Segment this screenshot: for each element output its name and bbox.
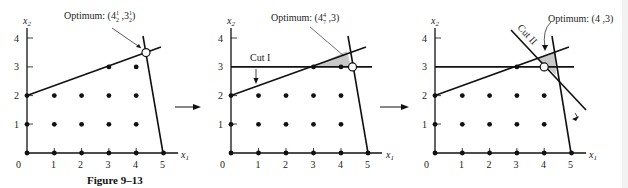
x-tick-2: 2 [78,159,83,170]
y-tick-3: 3 [422,61,427,72]
optimum-label: Optimum: (447 ,3) [271,12,339,25]
x-tick-1: 1 [51,159,56,170]
y-tick-1: 1 [218,119,223,130]
panel-2: 0 1 2 3 4 5 1 2 3 4 x1 x2 Cut I Optimum:… [218,12,409,170]
y-tick-4: 4 [422,33,427,44]
panel-1: 0 1 2 3 4 5 1 2 3 4 x1 x2 Optimum: (412 … [14,10,201,186]
x-tick-0: 0 [220,159,225,170]
y-tick-2: 2 [14,90,19,101]
integer-points [25,65,166,156]
arrow-right-icon [401,104,409,110]
x-axis-label: x1 [180,149,189,162]
arrow-down-icon [254,78,259,84]
cut-2-line [511,30,586,110]
x-tick-3: 3 [514,159,519,170]
y-axis-label: x2 [430,15,439,28]
arrow-right-icon [193,104,201,110]
optimum-label: Optimum: (412 ,312) [64,10,135,23]
integer-points [229,65,371,156]
figure-canvas: 0 1 2 3 4 5 1 2 3 4 x1 x2 Optimum: (412 … [0,0,628,188]
x-tick-2: 2 [487,159,492,170]
x-tick-3: 3 [311,159,316,170]
y-tick-2: 2 [422,90,427,101]
y-axis-label: x2 [226,15,235,28]
cut-2-label: Cut II [516,22,540,47]
y-tick-4: 4 [14,33,19,44]
optimum-marker [349,63,357,71]
optimum-label: Optimum: (4 ,3) [548,13,613,25]
y-tick-4: 4 [218,33,223,44]
panel-3: 0 1 2 3 4 5 1 2 3 4 x1 x2 Cut II Optimum… [422,13,613,170]
x-tick-1: 1 [459,159,464,170]
x-tick-1: 1 [256,159,261,170]
y-tick-3: 3 [218,61,223,72]
optimum-pointer [112,28,141,48]
y-tick-3: 3 [14,61,19,72]
x-tick-0: 0 [16,159,21,170]
cut-1-label: Cut I [250,52,270,63]
optimum-pointer [310,27,344,56]
y-tick-2: 2 [218,90,223,101]
page-edge [622,0,628,188]
x-tick-5: 5 [365,159,370,170]
x-tick-2: 2 [283,159,288,170]
figure-caption: Figure 9–13 [87,174,143,186]
x-axis-label: x1 [588,149,597,162]
x-axis-label: x1 [385,149,394,162]
optimum-marker [142,49,150,57]
x-tick-4: 4 [133,159,138,170]
x-tick-5: 5 [568,159,573,170]
y-axis-label: x2 [22,15,31,28]
x-tick-3: 3 [106,159,111,170]
integer-points [433,65,574,156]
x-tick-4: 4 [338,159,343,170]
x-tick-5: 5 [160,159,165,170]
y-tick-1: 1 [422,119,427,130]
optimum-pointer [544,22,551,48]
x-tick-4: 4 [541,159,546,170]
x-tick-0: 0 [424,159,429,170]
y-tick-1: 1 [14,119,19,130]
arrow-icon [572,116,579,121]
optimum-marker [540,63,548,71]
constraint-line-1 [27,47,161,96]
